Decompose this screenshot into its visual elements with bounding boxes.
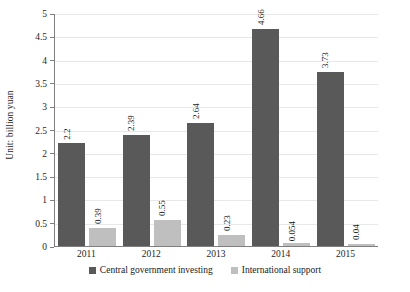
bar-value-label: 2.64 — [192, 103, 201, 119]
legend-swatch-icon — [231, 267, 238, 274]
bar-value-label: 0.04 — [352, 224, 361, 240]
x-axis-label: 2011 — [54, 249, 119, 259]
y-axis-tick: 1 — [42, 194, 54, 206]
bar-group-inner: 2.640.23 — [185, 14, 247, 246]
y-axis-tick: 5 — [42, 8, 54, 20]
y-axis-title-text: Unit: billion yuan — [5, 90, 15, 159]
bar-value-label: 2.2 — [63, 129, 72, 140]
bar-value-label: 0.23 — [223, 215, 232, 231]
y-axis-title: Unit: billion yuan — [2, 0, 18, 250]
legend-entry[interactable]: Central government investing — [89, 265, 213, 275]
bar-primary[interactable]: 4.66 — [252, 29, 279, 246]
bar-secondary[interactable]: 0.04 — [348, 244, 375, 246]
plot-area: 2.20.392.390.552.640.234.660.0543.730.04 — [54, 14, 378, 247]
bar-primary[interactable]: 2.39 — [123, 135, 150, 246]
bar-value-label: 0.55 — [158, 201, 167, 217]
y-axis-tick: 2.5 — [35, 125, 54, 137]
legend-label: International support — [242, 265, 321, 275]
x-axis-labels: 20112012201320142015 — [54, 249, 378, 259]
bar-group-inner: 4.660.054 — [250, 14, 312, 246]
y-axis-tick: 4.5 — [35, 31, 54, 43]
y-axis-tick: 0.5 — [35, 218, 54, 230]
y-axis-tick-label: 0 — [42, 242, 50, 252]
y-axis-tick-label: 2 — [42, 149, 50, 159]
y-axis-tick-label: 4 — [42, 56, 50, 66]
bar-primary[interactable]: 3.73 — [317, 72, 344, 246]
y-axis-tick: 3.5 — [35, 78, 54, 90]
y-axis-ticks: 00.511.522.533.544.55 — [0, 14, 54, 247]
y-axis-tick: 3 — [42, 101, 54, 113]
y-axis-tick-label: 3.5 — [35, 79, 50, 89]
bar-chart: Unit: billion yuan 00.511.522.533.544.55… — [0, 0, 410, 292]
x-axis-label: 2013 — [184, 249, 249, 259]
y-axis-tick: 1.5 — [35, 171, 54, 183]
bar-group: 2.640.23 — [184, 14, 249, 246]
y-axis-tick: 0 — [42, 241, 54, 253]
bar-secondary[interactable]: 0.55 — [154, 220, 181, 246]
legend-label: Central government investing — [100, 265, 213, 275]
x-axis-label: 2012 — [119, 249, 184, 259]
bar-group-inner: 2.20.39 — [56, 14, 118, 246]
x-axis-label: 2015 — [313, 249, 378, 259]
bar-group: 2.20.39 — [55, 14, 120, 246]
bars-layer: 2.20.392.390.552.640.234.660.0543.730.04 — [55, 14, 378, 246]
y-axis-tick: 4 — [42, 55, 54, 67]
bar-value-label: 0.054 — [288, 221, 297, 241]
chart-legend: Central government investingInternationa… — [0, 265, 410, 275]
legend-swatch-icon — [89, 267, 96, 274]
bar-value-label: 2.39 — [127, 115, 136, 131]
y-axis-tick-label: 2.5 — [35, 126, 50, 136]
legend-entry[interactable]: International support — [231, 265, 321, 275]
bar-secondary[interactable]: 0.23 — [218, 235, 245, 246]
bar-primary[interactable]: 2.64 — [187, 123, 214, 246]
bar-value-label: 3.73 — [321, 52, 330, 68]
bar-primary[interactable]: 2.2 — [58, 143, 85, 246]
x-axis-label: 2014 — [248, 249, 313, 259]
bar-secondary[interactable]: 0.39 — [89, 228, 116, 246]
bar-group: 3.730.04 — [313, 14, 378, 246]
bar-group-inner: 3.730.04 — [315, 14, 377, 246]
y-axis-tick-label: 1.5 — [35, 172, 50, 182]
y-axis-tick-label: 0.5 — [35, 219, 50, 229]
bar-secondary[interactable]: 0.054 — [283, 243, 310, 246]
bar-value-label: 0.39 — [94, 208, 103, 224]
bar-group: 4.660.054 — [249, 14, 314, 246]
y-axis-tick-label: 5 — [42, 9, 50, 19]
y-axis-tick-label: 4.5 — [35, 32, 50, 42]
bar-group: 2.390.55 — [120, 14, 185, 246]
y-axis-tick-label: 3 — [42, 102, 50, 112]
y-axis-tick-label: 1 — [42, 195, 50, 205]
y-axis-tick: 2 — [42, 148, 54, 160]
bar-group-inner: 2.390.55 — [121, 14, 183, 246]
bar-value-label: 4.66 — [257, 9, 266, 25]
